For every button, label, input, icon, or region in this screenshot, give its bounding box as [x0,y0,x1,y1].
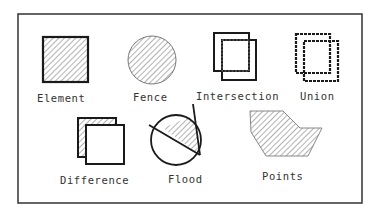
label-intersection: Intersection [196,90,279,102]
element-icon [43,37,88,82]
intersection-icon [214,33,256,80]
label-difference: Difference [60,174,129,186]
union-icon [296,34,338,81]
label-element: Element [37,92,85,104]
flood-icon [149,104,201,165]
label-union: Union [300,90,335,102]
points-icon [250,111,322,156]
label-points: Points [262,170,304,182]
fence-icon [128,36,176,84]
label-fence: Fence [133,91,168,103]
difference-icon [78,118,124,164]
selection-methods-diagram: Element Fence Intersection Union Differe… [0,0,381,215]
label-flood: Flood [168,173,203,185]
